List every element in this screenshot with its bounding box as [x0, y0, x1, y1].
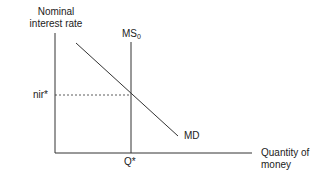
money-supply-label: MS0: [122, 28, 141, 43]
equilibrium-quantity-label: Q*: [124, 156, 136, 168]
equilibrium-rate-label: nir*: [33, 89, 48, 101]
x-axis-label: Quantity of money: [261, 147, 309, 171]
money-demand-line: [76, 43, 178, 136]
y-axis-label: Nominal interest rate: [14, 6, 98, 30]
money-demand-label: MD: [184, 130, 200, 142]
